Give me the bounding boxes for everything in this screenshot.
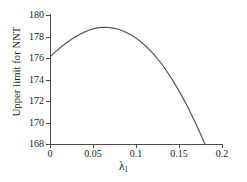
x-tick-label: 0 [30, 149, 70, 159]
y-tick-label: 170 [0, 118, 44, 128]
y-tick-label: 178 [0, 32, 44, 42]
y-tick-mark [46, 80, 50, 81]
x-axis-label-subscript: 1 [124, 165, 128, 174]
y-tick-mark [46, 15, 50, 16]
y-tick-mark [46, 101, 50, 102]
y-axis-spine [50, 14, 51, 145]
y-tick-mark [46, 123, 50, 124]
y-tick-label: 176 [0, 53, 44, 63]
y-tick-mark [46, 37, 50, 38]
y-tick-mark [46, 58, 50, 59]
y-tick-label: 174 [0, 75, 44, 85]
x-tick-label: 0.05 [73, 149, 113, 159]
x-tick-label: 0.2 [202, 149, 242, 159]
x-tick-label: 0.1 [116, 149, 156, 159]
x-axis-label: λ1 [0, 160, 247, 174]
y-tick-label: 180 [0, 10, 44, 20]
chart-figure: Upper limit for NNT 16817017217417617818… [0, 0, 247, 182]
y-tick-label: 168 [0, 139, 44, 149]
y-tick-label: 172 [0, 96, 44, 106]
x-tick-label: 0.15 [159, 149, 199, 159]
